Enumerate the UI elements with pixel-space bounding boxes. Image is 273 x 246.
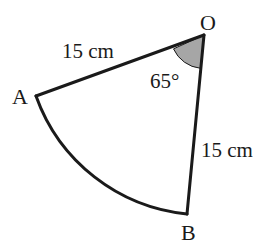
label-ob-length: 15 cm — [201, 138, 253, 162]
label-oa-length: 15 cm — [62, 39, 114, 63]
vertex-label-o: O — [200, 10, 216, 35]
arc-ab — [36, 96, 187, 214]
sector-diagram: O A B 15 cm 15 cm 65° — [0, 0, 273, 246]
vertex-label-b: B — [181, 220, 196, 245]
vertex-label-a: A — [12, 84, 28, 109]
angle-label: 65° — [150, 69, 179, 93]
